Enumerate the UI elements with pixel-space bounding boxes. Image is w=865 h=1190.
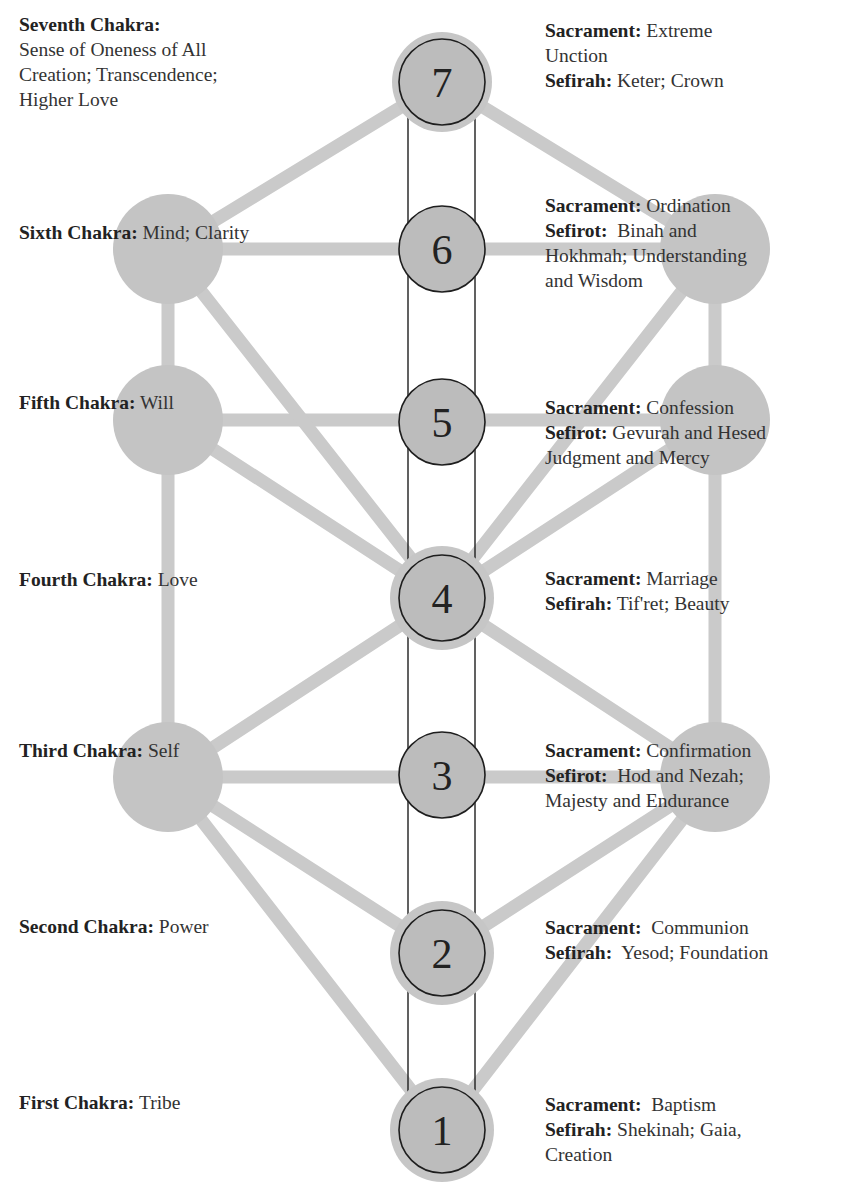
svg-text:5: 5 — [432, 400, 453, 446]
chakra-desc: Sense of Oneness of All — [19, 37, 218, 62]
svg-text:1: 1 — [432, 1108, 453, 1154]
left-node-6 — [113, 194, 223, 304]
svg-text:6: 6 — [432, 227, 453, 273]
tree-of-life-diagram: 7 6 5 4 3 2 1 — [0, 0, 865, 1190]
correspondence-1: Sacrament: Baptism Sefirah: Shekinah; Ga… — [545, 1092, 742, 1167]
chakra-node-5: 5 — [399, 379, 485, 465]
correspondence-3: Sacrament: Confirmation Sefirot: Hod and… — [545, 738, 751, 813]
svg-text:2: 2 — [432, 931, 453, 977]
chakra-node-2: 2 — [390, 901, 494, 1005]
first-chakra-label: First Chakra: Tribe — [19, 1090, 180, 1115]
chakra-desc: Creation; Transcendence; — [19, 62, 218, 87]
chakra-node-4: 4 — [390, 546, 494, 650]
correspondence-6: Sacrament: Ordination Sefirot: Binah and… — [545, 193, 747, 293]
svg-text:3: 3 — [432, 753, 453, 799]
second-chakra-label: Second Chakra: Power — [19, 914, 209, 939]
chakra-node-6: 6 — [399, 206, 485, 292]
third-chakra-label: Third Chakra: Self — [19, 738, 179, 763]
chakra-node-3: 3 — [399, 732, 485, 818]
chakra-node-1: 1 — [390, 1078, 494, 1182]
sixth-chakra-label: Sixth Chakra: Mind; Clarity — [19, 220, 249, 245]
svg-text:4: 4 — [432, 576, 453, 622]
fifth-chakra-label: Fifth Chakra: Will — [19, 390, 174, 415]
correspondence-5: Sacrament: Confession Sefirot: Gevurah a… — [545, 395, 766, 470]
fourth-chakra-label: Fourth Chakra: Love — [19, 567, 198, 592]
svg-text:7: 7 — [432, 60, 453, 106]
correspondence-7: Sacrament: Extreme Unction Sefirah: Kete… — [545, 18, 724, 93]
chakra-desc: Higher Love — [19, 87, 218, 112]
correspondence-2: Sacrament: Communion Sefirah: Yesod; Fou… — [545, 915, 768, 965]
chakra-node-7: 7 — [392, 32, 492, 132]
chakra-name: Seventh Chakra: — [19, 14, 160, 35]
correspondence-4: Sacrament: Marriage Sefirah: Tif'ret; Be… — [545, 566, 729, 616]
seventh-chakra-label: Seventh Chakra: Sense of Oneness of All … — [19, 12, 218, 112]
center-nodes: 7 6 5 4 3 2 1 — [390, 32, 494, 1182]
left-node-5 — [113, 365, 223, 475]
